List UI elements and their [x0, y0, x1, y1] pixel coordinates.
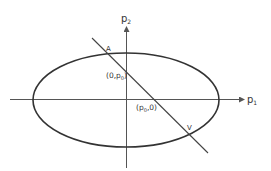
p1-axis-label: p1 — [247, 94, 257, 106]
p2-axis-label: p2 — [121, 13, 131, 25]
diagram-svg: p2 p1 A V (0,p0) (p0,0) — [0, 0, 271, 171]
point-a-label: A — [106, 45, 111, 53]
point-v-label: V — [187, 124, 192, 132]
y-intercept-label: (0,p0) — [106, 71, 127, 81]
diagram-canvas: p2 p1 A V (0,p0) (p0,0) — [0, 0, 271, 171]
x-intercept-label: (p0,0) — [136, 103, 157, 113]
